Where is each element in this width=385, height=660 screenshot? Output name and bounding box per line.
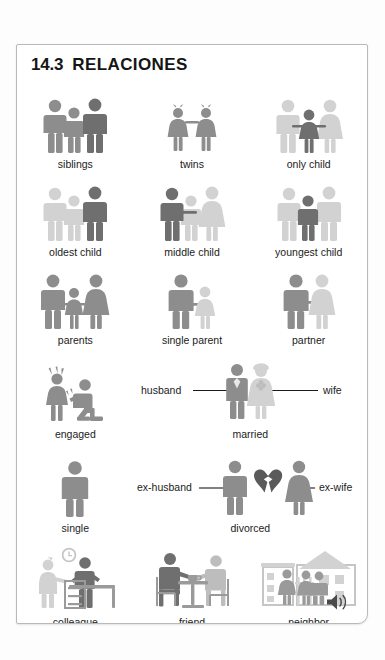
youngest-child-icon bbox=[250, 175, 367, 245]
three-siblings-icon bbox=[17, 87, 134, 157]
oldest-child-icon bbox=[17, 175, 134, 245]
entry-siblings[interactable]: siblings bbox=[17, 87, 134, 175]
entry-engaged[interactable]: engaged bbox=[17, 351, 134, 445]
entry-label: youngest child bbox=[275, 245, 342, 263]
entry-label: colleague bbox=[53, 615, 98, 624]
page-background: 14.3 RELACIONES bbox=[0, 0, 385, 660]
relations-grid: siblings bbox=[17, 87, 367, 624]
partner-icon bbox=[250, 263, 367, 333]
entry-label: parents bbox=[58, 333, 93, 351]
entry-label: middle child bbox=[164, 245, 219, 263]
friends-table-icon bbox=[134, 539, 251, 615]
entry-label: neighbor bbox=[288, 615, 329, 624]
callout-ex-wife: ex-wife bbox=[319, 481, 352, 493]
callout-ex-husband: ex-husband bbox=[137, 481, 192, 493]
relations-row: oldest child bbox=[17, 175, 367, 263]
entry-friend[interactable]: friend bbox=[134, 539, 251, 624]
single-person-icon bbox=[17, 445, 134, 521]
entry-label: twins bbox=[180, 157, 204, 175]
section-title: RELACIONES bbox=[72, 55, 187, 75]
married-couple-icon: husband wife bbox=[134, 351, 367, 427]
divorced-broken-heart-icon: ex-husband ex-wife bbox=[134, 445, 367, 521]
page-title: 14.3 RELACIONES bbox=[31, 55, 188, 75]
entry-single-parent[interactable]: single parent bbox=[134, 263, 251, 351]
callout-wife: wife bbox=[322, 384, 342, 396]
parents-icon bbox=[17, 263, 134, 333]
middle-child-icon bbox=[134, 175, 251, 245]
colleague-office-icon bbox=[17, 539, 134, 615]
entry-label: married bbox=[233, 427, 269, 445]
entry-married[interactable]: husband wife bbox=[134, 351, 367, 445]
entry-youngest-child[interactable]: youngest child bbox=[250, 175, 367, 263]
entry-label: engaged bbox=[55, 427, 96, 445]
relations-row: engaged husband wife bbox=[17, 351, 367, 445]
only-child-icon bbox=[250, 87, 367, 157]
entry-label: siblings bbox=[58, 157, 93, 175]
entry-parents[interactable]: parents bbox=[17, 263, 134, 351]
section-number: 14.3 bbox=[31, 55, 63, 75]
entry-label: single bbox=[62, 521, 89, 539]
lesson-card: 14.3 RELACIONES bbox=[16, 44, 368, 624]
entry-label: divorced bbox=[230, 521, 270, 539]
entry-single[interactable]: single bbox=[17, 445, 134, 539]
entry-oldest-child[interactable]: oldest child bbox=[17, 175, 134, 263]
relations-row: siblings bbox=[17, 87, 367, 175]
entry-label: single parent bbox=[162, 333, 222, 351]
twin-girls-icon bbox=[134, 87, 251, 157]
engagement-proposal-icon bbox=[17, 351, 134, 427]
callout-husband: husband bbox=[141, 384, 181, 396]
relations-row: single ex-husband ex-wife bbox=[17, 445, 367, 539]
single-parent-icon bbox=[134, 263, 251, 333]
entry-partner[interactable]: partner bbox=[250, 263, 367, 351]
relations-row: parents bbox=[17, 263, 367, 351]
relations-row: colleague bbox=[17, 539, 367, 624]
entry-colleague[interactable]: colleague bbox=[17, 539, 134, 624]
entry-middle-child[interactable]: middle child bbox=[134, 175, 251, 263]
entry-only-child[interactable]: only child bbox=[250, 87, 367, 175]
entry-divorced[interactable]: ex-husband ex-wife bbox=[134, 445, 367, 539]
entry-label: friend bbox=[179, 615, 205, 624]
entry-label: oldest child bbox=[49, 245, 102, 263]
entry-label: partner bbox=[292, 333, 325, 351]
entry-twins[interactable]: twins bbox=[134, 87, 251, 175]
entry-label: only child bbox=[287, 157, 331, 175]
speaker-icon[interactable] bbox=[325, 591, 351, 613]
